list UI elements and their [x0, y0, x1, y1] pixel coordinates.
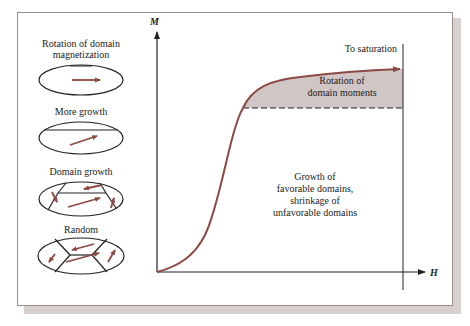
- magnetization-arrow-icon: [72, 244, 94, 250]
- diagram-canvas: M H To saturation Rotation of domain mom…: [0, 0, 470, 326]
- stage-domain-growth: Domain growth: [39, 166, 123, 216]
- stage-more-growth: More growth: [39, 106, 123, 154]
- stage-rotation: Rotation of domain magnetization: [39, 38, 123, 95]
- stage-random: Random: [38, 224, 124, 274]
- growth-label-2: favorable domains,: [277, 183, 354, 194]
- saturation-label: To saturation: [345, 43, 397, 54]
- stage-more-growth-label: More growth: [55, 106, 108, 117]
- y-axis-label: M: [149, 16, 160, 27]
- x-axis-label: H: [429, 267, 439, 278]
- stage-rotation-label-2: magnetization: [53, 49, 110, 60]
- growth-label-4: unfavorable domains: [273, 207, 357, 218]
- stage-rotation-label-1: Rotation of domain: [42, 38, 120, 49]
- magnetization-arrow-icon: [111, 198, 114, 208]
- stage-random-label: Random: [64, 224, 98, 235]
- growth-label-3: shrinkage of: [290, 195, 340, 206]
- growth-label-1: Growth of: [294, 171, 336, 182]
- rotation-label-2: domain moments: [307, 87, 376, 98]
- magnetization-arrow-icon: [68, 198, 100, 207]
- stage-domain-growth-label: Domain growth: [49, 166, 112, 177]
- magnetization-arrow-icon: [108, 250, 115, 262]
- magnetization-arrow-icon: [49, 254, 55, 262]
- magnetization-arrow-icon: [84, 185, 102, 189]
- magnetization-arrow-icon: [70, 136, 97, 145]
- stage-more-growth-ellipse: [39, 122, 123, 154]
- rotation-label-1: Rotation of: [319, 75, 365, 86]
